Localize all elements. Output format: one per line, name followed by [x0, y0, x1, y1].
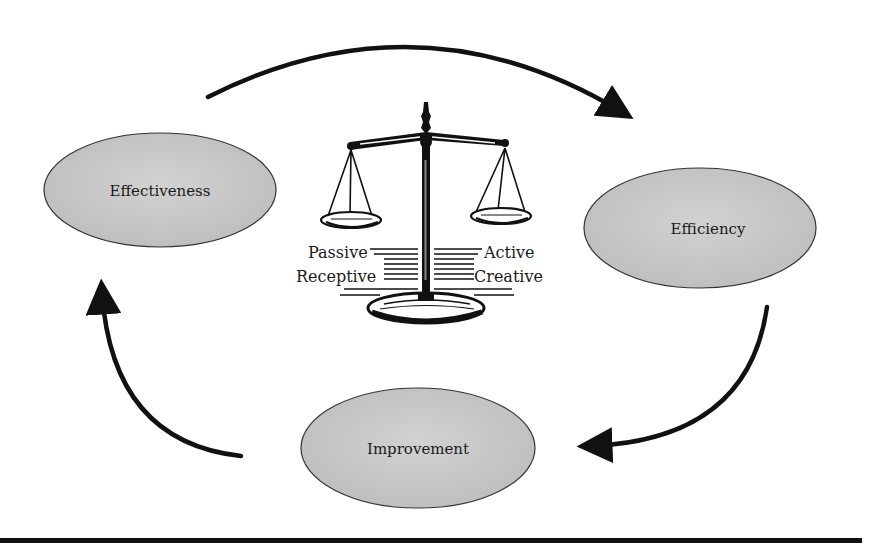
balance-scale-icon: [321, 102, 531, 323]
node-label-effectiveness: Effectiveness: [110, 182, 211, 200]
cycle-diagram: Effectiveness Efficiency Improvement: [0, 0, 870, 546]
scale-label-active: Active: [483, 243, 535, 262]
node-label-efficiency: Efficiency: [670, 220, 746, 238]
node-label-improvement: Improvement: [367, 440, 469, 458]
arrow-effectiveness-to-efficiency: [208, 47, 622, 112]
node-efficiency: Efficiency: [584, 168, 816, 288]
arrow-improvement-to-effectiveness: [102, 292, 241, 456]
node-effectiveness: Effectiveness: [44, 133, 276, 247]
node-improvement: Improvement: [301, 388, 535, 508]
bottom-rule: [0, 538, 862, 543]
scale-label-passive: Passive: [308, 243, 368, 262]
arrow-efficiency-to-improvement: [590, 307, 767, 446]
scale-label-receptive: Receptive: [296, 267, 376, 286]
scale-label-creative: Creative: [474, 267, 543, 286]
